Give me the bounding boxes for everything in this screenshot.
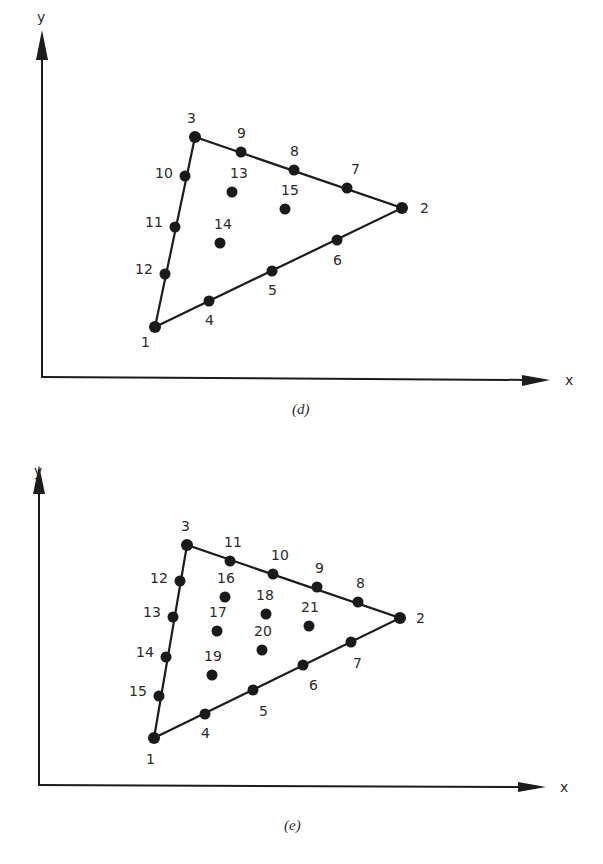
node-label: 11 <box>145 214 163 230</box>
node-13-interior <box>227 187 238 198</box>
node-15-edge <box>154 691 165 702</box>
node-4-edge <box>200 709 211 720</box>
node-10-edge <box>180 171 191 182</box>
node-20-interior <box>257 645 268 656</box>
x-axis-arrow-icon <box>518 782 546 792</box>
node-label: 8 <box>290 143 299 159</box>
x-axis-label: x <box>565 372 573 388</box>
node-14-interior <box>215 238 226 249</box>
node-15-interior <box>280 204 291 215</box>
x-axis-label: x <box>560 779 568 795</box>
node-8-edge <box>353 597 364 608</box>
node-label: 3 <box>187 110 196 126</box>
node-1-corner <box>149 321 161 333</box>
node-label: 15 <box>129 683 147 699</box>
node-7-edge <box>342 183 353 194</box>
node-12-edge <box>175 576 186 587</box>
figure-caption: (e) <box>284 817 301 834</box>
node-19-interior <box>207 670 218 681</box>
node-3-corner <box>189 131 201 143</box>
y-axis-arrow-icon <box>36 30 48 60</box>
y-axis-label: y <box>34 463 42 479</box>
node-5-edge <box>248 685 259 696</box>
node-1-corner <box>148 732 160 744</box>
node-3-corner <box>181 539 193 551</box>
node-11-edge <box>225 556 236 567</box>
node-6-edge <box>298 660 309 671</box>
node-label: 20 <box>254 623 272 639</box>
node-4-edge <box>204 296 215 307</box>
node-label: 1 <box>141 334 150 350</box>
node-8-edge <box>289 165 300 176</box>
diagram-canvas: y x 123456789101112131415 (d) y x 123456… <box>0 0 603 864</box>
node-5-edge <box>267 266 278 277</box>
node-label: 9 <box>315 560 324 576</box>
node-label: 5 <box>259 703 268 719</box>
node-label: 14 <box>136 644 154 660</box>
node-9-edge <box>312 582 323 593</box>
node-11-edge <box>170 222 181 233</box>
node-18-interior <box>261 609 272 620</box>
node-2-corner <box>396 202 408 214</box>
node-6-edge <box>332 235 343 246</box>
node-label: 4 <box>201 725 210 741</box>
node-label: 11 <box>224 534 242 550</box>
figure-caption: (d) <box>292 401 310 418</box>
node-label: 19 <box>204 648 222 664</box>
node-2-corner <box>394 612 406 624</box>
node-label: 3 <box>181 518 190 534</box>
node-label: 6 <box>333 252 342 268</box>
figure-d: y x 123456789101112131415 (d) <box>36 9 573 418</box>
node-label: 7 <box>351 161 360 177</box>
x-axis <box>41 377 530 380</box>
node-7-edge <box>346 637 357 648</box>
node-label: 9 <box>237 125 246 141</box>
figure-e: y x 123456789101112131415161718192021 (e… <box>33 463 568 834</box>
x-axis-arrow-icon <box>522 375 550 386</box>
x-axis <box>38 785 525 787</box>
node-label: 21 <box>301 599 319 615</box>
node-10-edge <box>268 569 279 580</box>
node-16-interior <box>220 592 231 603</box>
node-label: 10 <box>155 165 173 181</box>
node-13-edge <box>168 612 179 623</box>
y-axis-label: y <box>37 9 45 25</box>
node-label: 12 <box>150 570 168 586</box>
node-14-edge <box>161 652 172 663</box>
node-label: 1 <box>146 751 155 767</box>
node-12-edge <box>160 269 171 280</box>
node-label: 2 <box>416 610 425 626</box>
node-label: 7 <box>353 655 362 671</box>
node-17-interior <box>212 626 223 637</box>
node-label: 10 <box>271 547 289 563</box>
node-label: 13 <box>143 604 161 620</box>
node-label: 13 <box>230 165 248 181</box>
node-label: 12 <box>135 261 153 277</box>
node-label: 8 <box>356 575 365 591</box>
node-label: 17 <box>209 604 227 620</box>
node-label: 4 <box>205 312 214 328</box>
node-9-edge <box>236 147 247 158</box>
node-label: 5 <box>268 282 277 298</box>
node-label: 15 <box>281 182 299 198</box>
node-label: 18 <box>256 587 274 603</box>
node-label: 14 <box>214 216 232 232</box>
node-label: 16 <box>217 570 235 586</box>
node-label: 6 <box>309 677 318 693</box>
node-group: 123456789101112131415 <box>135 110 429 350</box>
node-21-interior <box>304 621 315 632</box>
triangle-element <box>155 137 402 327</box>
node-label: 2 <box>420 200 429 216</box>
